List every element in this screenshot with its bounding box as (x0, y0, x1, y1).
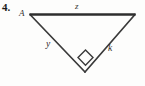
right-angle-marker (78, 50, 93, 65)
triangle-side-left (30, 15, 85, 73)
side-label-y: y (46, 39, 50, 49)
side-label-z: z (75, 1, 79, 11)
vertex-label-a: A (19, 8, 25, 18)
geometry-figure: 4. A z y k (0, 0, 145, 86)
side-label-k: k (108, 43, 112, 53)
